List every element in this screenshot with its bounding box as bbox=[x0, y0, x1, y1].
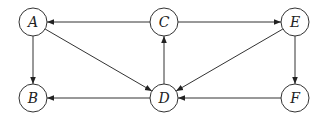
node-d: D bbox=[150, 84, 178, 112]
node-label: C bbox=[159, 14, 170, 30]
edge-e-to-d bbox=[176, 29, 283, 91]
node-label: E bbox=[289, 14, 300, 30]
node-c: C bbox=[150, 8, 178, 36]
node-label: F bbox=[289, 90, 301, 106]
node-a: A bbox=[19, 8, 47, 36]
node-f: F bbox=[281, 84, 309, 112]
node-label: B bbox=[27, 90, 38, 106]
edge-a-to-d bbox=[45, 29, 152, 91]
node-label: D bbox=[157, 90, 169, 106]
node-b: B bbox=[19, 84, 47, 112]
directed-graph: ABCDEF bbox=[0, 0, 328, 121]
node-e: E bbox=[281, 8, 309, 36]
node-label: A bbox=[26, 14, 38, 30]
